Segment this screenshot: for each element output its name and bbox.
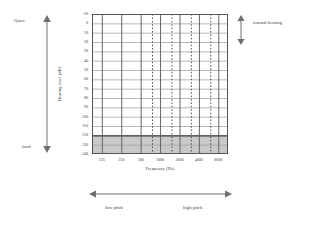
- y-tick-label: 130: [82, 143, 88, 147]
- audiogram-grid: [92, 14, 228, 154]
- y-axis-ticks: -100102030405060708090100110120130140: [70, 14, 90, 154]
- x-tick-label: 8000: [214, 157, 222, 163]
- y-tick-label: 100: [82, 115, 88, 119]
- normal-hearing-label: normal hearing: [253, 20, 282, 26]
- y-tick-label: 10: [84, 31, 88, 35]
- normal-hearing-double-arrow-icon: [234, 14, 248, 46]
- shaded-band: [92, 135, 228, 154]
- quiet-label: Quiet: [14, 18, 25, 24]
- x-axis-title: Frequency (Hz): [92, 165, 228, 172]
- y-tick-label: -10: [83, 12, 88, 16]
- x-tick-label: 250: [118, 157, 124, 163]
- y-tick-label: 90: [84, 105, 88, 109]
- y-tick-label: 60: [84, 77, 88, 81]
- x-tick-label: 500: [138, 157, 144, 163]
- x-tick-label: 1000: [156, 157, 164, 163]
- y-tick-label: 110: [82, 124, 88, 128]
- y-tick-label: 70: [84, 87, 88, 91]
- y-tick-label: 20: [84, 40, 88, 44]
- y-tick-label: 50: [84, 68, 88, 72]
- pitch-double-arrow-icon: [88, 188, 233, 200]
- high-pitch-label: high pitch: [183, 205, 202, 211]
- x-tick-label: 4000: [195, 157, 203, 163]
- y-tick-label: 30: [84, 49, 88, 53]
- y-tick-label: 140: [82, 152, 88, 156]
- y-tick-label: 120: [82, 133, 88, 137]
- x-tick-label: 2000: [175, 157, 183, 163]
- y-tick-label: 40: [84, 59, 88, 63]
- y-tick-label: 0: [86, 21, 88, 25]
- y-tick-label: 80: [84, 96, 88, 100]
- loud-label: loud: [22, 144, 31, 150]
- y-axis-title: Hearing level (dB): [55, 14, 65, 154]
- loudness-double-arrow-icon: [40, 14, 54, 154]
- plot-area: [92, 14, 228, 154]
- x-tick-label: 125: [99, 157, 105, 163]
- x-axis-ticks: 1252505001000200040008000: [92, 157, 228, 165]
- low-pitch-label: low pitch: [105, 205, 123, 211]
- audiogram-figure: Hearing level (dB) -10010203040506070809…: [0, 0, 315, 226]
